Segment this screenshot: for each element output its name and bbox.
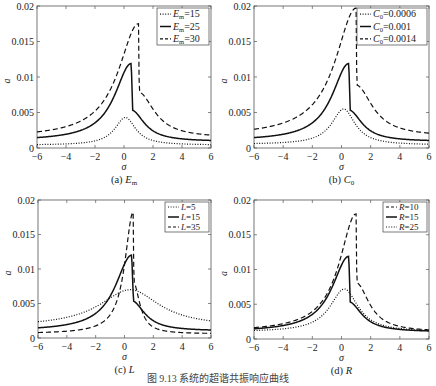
y-axis-label: a <box>1 79 12 84</box>
legend-entry: C0=0.0014 <box>373 33 416 45</box>
y-tick-label: 0.01 <box>18 264 36 275</box>
legend-entry: Em=25 <box>172 21 200 33</box>
legend: C0=0.0006C0=0.001C0=0.0014 <box>357 8 427 45</box>
y-tick-label: 0.015 <box>229 229 252 240</box>
x-tick-label: −4 <box>278 342 289 353</box>
x-tick-label: −2 <box>90 151 101 162</box>
legend-val: =25 <box>405 222 420 232</box>
legend-val: =0.001 <box>383 21 411 32</box>
x-tick-label: 6 <box>427 151 432 162</box>
x-tick-label: 4 <box>397 151 402 162</box>
y-axis-label: a <box>2 271 13 276</box>
x-tick-label: 2 <box>151 341 156 352</box>
x-tick-label: 4 <box>397 342 402 353</box>
legend-entry: L=15 <box>180 212 201 222</box>
y-tick-label: 0.005 <box>12 107 35 118</box>
legend-entry: R=10 <box>398 202 419 212</box>
legend-val: =30 <box>184 33 200 44</box>
y-tick-label: 0.01 <box>234 264 252 275</box>
y-tick-label: 0 <box>246 334 251 345</box>
x-tick-label: 2 <box>368 151 373 162</box>
y-tick-label: 0.015 <box>12 36 35 47</box>
figure-canvas: −6−4−2024600.0050.010.0150.02σa(a) EmEm=… <box>0 0 436 386</box>
y-tick-label: 0.005 <box>229 299 252 310</box>
legend-entry: Em=15 <box>172 8 200 20</box>
x-tick-label: −2 <box>90 341 101 352</box>
legend: L=5L=15L=35 <box>165 202 209 232</box>
x-axis-label: σ <box>122 351 128 362</box>
y-tick-label: 0.005 <box>13 298 36 309</box>
subplot-caption-sub: m <box>132 179 138 187</box>
legend-entry: C0=0.0006 <box>373 8 416 20</box>
x-tick-label: −4 <box>278 151 289 162</box>
y-tick-label: 0.015 <box>13 229 36 240</box>
y-tick-label: 0.01 <box>234 72 252 83</box>
legend-entry: R=25 <box>398 222 419 232</box>
y-tick-label: 0.02 <box>18 195 36 206</box>
x-tick-label: 2 <box>368 342 373 353</box>
legend-entry: Em=30 <box>172 33 200 45</box>
y-tick-label: 0.02 <box>234 1 252 12</box>
legend-val: =15 <box>184 8 200 19</box>
legend-var: E <box>172 8 179 19</box>
y-axis-label: a <box>218 79 229 84</box>
subplot-caption-label: (a) <box>111 174 125 186</box>
y-tick-label: 0 <box>29 143 34 154</box>
y-tick-label: 0.02 <box>234 195 252 206</box>
legend-val: =15 <box>405 212 420 222</box>
y-tick-label: 0 <box>246 143 251 154</box>
legend-val: =15 <box>186 212 201 222</box>
legend: Em=15Em=25Em=30 <box>157 8 209 45</box>
y-tick-label: 0.02 <box>17 1 35 12</box>
legend-var: E <box>172 21 179 32</box>
x-axis-label: σ <box>339 352 345 363</box>
x-tick-label: 6 <box>209 341 214 352</box>
x-tick-label: −2 <box>307 342 318 353</box>
subplot-caption: (a) Em <box>111 174 138 187</box>
x-tick-label: 6 <box>427 342 432 353</box>
y-tick-label: 0.01 <box>17 72 35 83</box>
legend-val: =5 <box>186 202 196 212</box>
figure-caption: 图 9.13 系统的超谐共振响应曲线 <box>0 370 436 385</box>
legend-val: =35 <box>186 222 201 232</box>
subplot-caption-sub: 0 <box>351 179 355 187</box>
subplot-c-l: −6−4−2024600.0050.010.0150.02σa(c) LL=5L… <box>2 195 214 377</box>
x-tick-label: 4 <box>180 151 185 162</box>
x-tick-label: 6 <box>209 151 214 162</box>
subplot-caption: (b) C0 <box>329 174 355 187</box>
legend-val: =0.0014 <box>383 33 416 44</box>
y-tick-label: 0.005 <box>229 107 252 118</box>
y-tick-label: 0 <box>30 333 35 344</box>
y-axis-label: a <box>218 271 229 276</box>
x-tick-label: 4 <box>180 341 185 352</box>
x-axis-label: σ <box>339 161 345 172</box>
legend-entry: L=5 <box>180 202 196 212</box>
legend: R=10R=15R=25 <box>383 202 427 232</box>
legend-entry: L=35 <box>180 222 201 232</box>
x-axis-label: σ <box>122 161 128 172</box>
subplot-caption-label: (b) <box>329 174 344 186</box>
x-tick-label: −4 <box>61 151 72 162</box>
legend-entry: R=15 <box>398 212 419 222</box>
subplot-a-em: −6−4−2024600.0050.010.0150.02σa(a) EmEm=… <box>1 1 214 188</box>
subplot-b-c0: −6−4−2024600.0050.010.0150.02σa(b) C0C0=… <box>218 1 432 188</box>
legend-val: =0.0006 <box>383 8 416 19</box>
y-tick-label: 0.015 <box>229 36 252 47</box>
x-tick-label: −4 <box>62 341 73 352</box>
legend-var: E <box>172 33 179 44</box>
legend-val: =10 <box>405 202 420 212</box>
x-tick-label: −2 <box>307 151 318 162</box>
legend-val: =25 <box>184 21 200 32</box>
subplot-d-r: −6−4−2024600.0050.010.0150.02σa(d) RR=10… <box>218 195 432 378</box>
x-tick-label: 2 <box>151 151 156 162</box>
legend-entry: C0=0.001 <box>373 21 411 33</box>
